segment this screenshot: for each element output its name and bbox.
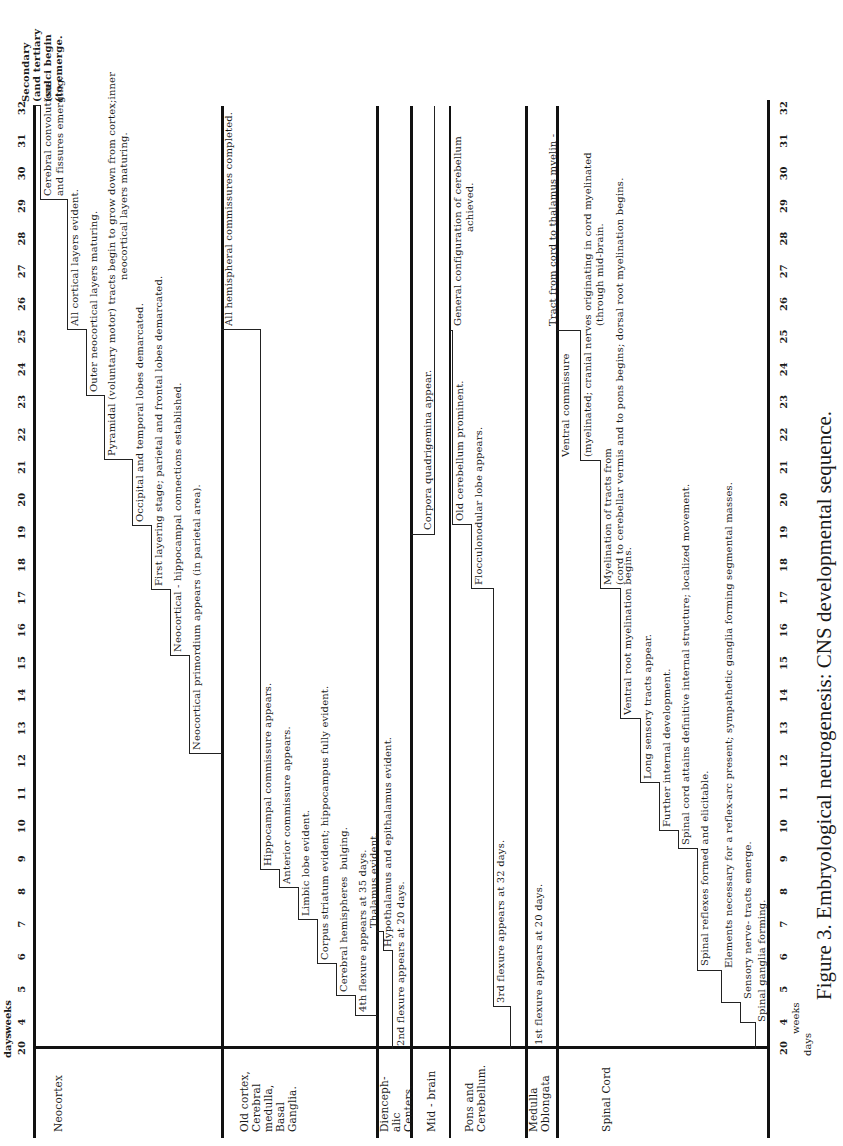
old-step (221, 329, 261, 330)
die-step (377, 931, 384, 932)
neo-step (170, 590, 171, 656)
bottom-axis-tick: 19 (778, 522, 789, 542)
event-neocortical-primordium: Neocortical primordium appears (in parie… (191, 484, 203, 750)
event-3rd-flexure: 3rd flexure appears at 32 days. (495, 840, 507, 1003)
sp-step (620, 718, 641, 719)
row-label-diencephalic: Dienceph- alic Centers. (378, 1076, 414, 1132)
top-axis-unit-days: days (2, 1033, 13, 1058)
neo-step (151, 526, 152, 590)
bottom-axis-tick: 18 (778, 555, 789, 575)
die-step (392, 951, 393, 1049)
top-axis-tick: 11 (16, 784, 27, 804)
pons-step (471, 525, 472, 589)
bottom-axis-tick: 5 (778, 979, 789, 999)
top-axis-tick: 7 (16, 914, 27, 934)
bottom-axis-tick: 21 (778, 457, 789, 477)
mid-step (434, 106, 435, 535)
event-thalamus: Thalamus evident. (368, 832, 380, 928)
top-axis-tick: 25 (16, 327, 27, 347)
event-long-sensory-tracts: Long sensory tracts appear. (642, 634, 654, 779)
event-corpus-striatum: Corpus striatum evident; hippocampus ful… (319, 686, 331, 960)
old-step (317, 963, 337, 964)
sp-step (721, 971, 722, 1003)
top-axis-tick: 31 (16, 131, 27, 151)
top-axis-tick: 19 (16, 522, 27, 542)
pons-step (452, 331, 453, 525)
event-first-layering: First layering stage; parietal and front… (153, 276, 165, 586)
event-outer-layers: Outer neocortical layers maturing. (88, 211, 100, 392)
bottom-axis-tick: 32 (778, 98, 789, 118)
old-step (298, 919, 318, 920)
pons-step (471, 588, 494, 589)
pons-step (493, 589, 494, 1007)
event-limbic-lobe: Limbic lobe evident. (300, 810, 312, 916)
bottom-axis-tick: 8 (778, 881, 789, 901)
top-axis-tick: 18 (16, 555, 27, 575)
sp-step (678, 848, 698, 849)
bottom-axis-tick: 20 (778, 1038, 789, 1058)
sp-step (640, 782, 660, 783)
event-hippocampal-commissure: Hippocampal commissure appears. (262, 683, 274, 866)
sp-step (580, 460, 601, 461)
event-sensory-nerve-tracts: Sensory nerve- tracts emerge. (742, 841, 754, 999)
event-cerebellum-configuration-cont: achieved. (464, 182, 476, 232)
event-ventral-commissure-2: (myelinated; cranial nerves originating … (582, 152, 594, 457)
event-further-internal: Further internal development. (661, 668, 673, 827)
sp-step (678, 831, 679, 849)
event-tract-myelination: Myelination of tracts from (602, 448, 614, 585)
top-axis-tick: 24 (16, 359, 27, 379)
top-axis-tick: 29 (16, 196, 27, 216)
neo-step (33, 105, 41, 106)
event-1st-flexure: 1st flexure appears at 20 days. (533, 884, 545, 1045)
bottom-axis-tick: 26 (778, 294, 789, 314)
event-occipital-temporal: Occipital and temporal lobes demarcated. (134, 303, 146, 522)
row-label-pons-cerebellum: Pons and Cerebellum. (463, 1065, 487, 1132)
row-label-medulla: Medulla Oblongata (527, 1075, 551, 1132)
bottom-axis-tick: 31 (778, 131, 789, 151)
top-axis-tick: 20 (16, 490, 27, 510)
neo-step (104, 396, 105, 460)
neo-step (67, 200, 68, 330)
event-flocculonodular: Flocculonodular lobe appears. (473, 427, 485, 585)
pons-step (452, 524, 472, 525)
sp-step (721, 1002, 741, 1003)
bottom-axis-tick: 14 (778, 686, 789, 706)
neo-step (151, 589, 171, 590)
sp-step (740, 1003, 741, 1023)
sp-step (697, 849, 698, 971)
bottom-axis-tick: 30 (778, 163, 789, 183)
sp-step (755, 1023, 756, 1049)
top-axis-tick: 27 (16, 261, 27, 281)
old-step (336, 964, 337, 996)
event-secondary-sulci-4: (to emerge. (53, 35, 65, 102)
bottom-axis-tick: 24 (778, 359, 789, 379)
row-label-spinal-cord: Spinal Cord (600, 1067, 612, 1132)
top-axis-tick: 30 (16, 163, 27, 183)
event-ventral-commissure: Ventral commissure (560, 353, 572, 457)
top-axis-tick: 17 (16, 588, 27, 608)
old-step (279, 870, 280, 888)
pons-step (493, 1006, 511, 1007)
chart-canvas: days weeks 20456789101112131415161718192… (0, 0, 843, 1146)
top-axis-tick: 12 (16, 751, 27, 771)
row-border-diencephalic (410, 106, 413, 1138)
old-step (355, 1015, 377, 1016)
event-cerebellum-configuration: General configuration of cerebellum (452, 136, 464, 326)
figure-caption: Figure 3. Embryological neurogenesis: CN… (812, 411, 837, 1000)
sp-step (557, 330, 581, 331)
row-label-neocortex: Neocortex (52, 1075, 64, 1132)
event-reflex-arc: Elements necessary for a reflex-arc pres… (723, 482, 735, 968)
top-axis-tick: 22 (16, 424, 27, 444)
pons-step (450, 330, 453, 331)
bottom-axis-tick: 16 (778, 620, 789, 640)
start-line-20-days (33, 1046, 767, 1049)
event-anterior-commissure: Anterior commissure appears. (281, 726, 293, 884)
old-step (298, 888, 299, 920)
bottom-axis-unit-weeks: weeks (790, 1002, 801, 1034)
top-axis-unit-weeks: weeks (2, 1000, 13, 1034)
bottom-axis-tick: 23 (778, 392, 789, 412)
old-step (279, 887, 299, 888)
bottom-axis-tick: 25 (778, 327, 789, 347)
event-thalamus-tract: Tract from cord to thalamus myelin - (547, 134, 559, 326)
event-2nd-flexure: 2nd flexure appears at 20 days. (395, 881, 407, 1046)
